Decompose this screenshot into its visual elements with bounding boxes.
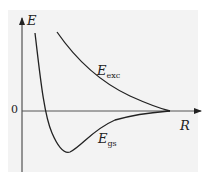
zero-tick-label: 0 — [11, 104, 18, 115]
excited-label-sub: exc — [107, 71, 121, 80]
excited-state-label: Eexc — [97, 64, 120, 77]
potential-energy-diagram: E R 0 Eexc Egs — [0, 0, 208, 181]
x-axis-label: R — [180, 119, 190, 132]
y-axis-label: E — [27, 14, 37, 27]
excited-label-main: E — [97, 63, 107, 78]
ground-label-sub: gs — [108, 139, 117, 148]
ground-state-label: Egs — [98, 132, 117, 145]
ground-label-main: E — [98, 131, 108, 146]
